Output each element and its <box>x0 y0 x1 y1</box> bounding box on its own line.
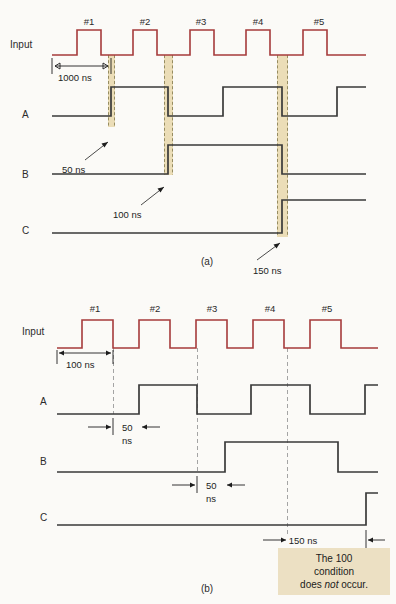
signal-label-input-a: Input <box>10 39 32 50</box>
signal-label-b-b: B <box>40 456 47 467</box>
callout-line-3-pre: does <box>300 579 324 590</box>
dimension-150ns-b: 150 ns <box>263 530 385 548</box>
figure-b-timing-diagram: #1 #2 #3 #4 #5 Input A B C 100 ns 50 ns <box>0 290 396 604</box>
annotation-a-delay-value: 50 <box>122 422 133 433</box>
pulse-number-2: #2 <box>140 16 151 27</box>
signal-label-a-a: A <box>22 109 29 120</box>
figure-caption-a: (a) <box>201 256 213 267</box>
pulse-number-1-b: #1 <box>90 303 101 314</box>
pulse-number-3: #3 <box>196 16 207 27</box>
signal-label-b-a: B <box>22 169 29 180</box>
callout-line-2: condition <box>314 566 354 577</box>
signal-label-c-b: C <box>40 512 47 523</box>
signal-label-input-b: Input <box>22 326 44 337</box>
annotation-c-delay-150ns: 150 ns <box>289 535 318 546</box>
callout-note: The 100 condition does not occur. <box>278 548 390 595</box>
pulse-number-5-b: #5 <box>322 303 333 314</box>
waveform-c-b <box>57 493 378 525</box>
annotation-100ns-a: 100 ns <box>113 187 164 220</box>
callout-line-1: The 100 <box>316 553 353 564</box>
waveform-a-a <box>52 87 366 116</box>
annotation-label-50ns: 50 ns <box>62 164 85 175</box>
waveform-input-b <box>57 320 378 348</box>
pulse-number-5: #5 <box>314 16 325 27</box>
annotation-a-delay-unit: ns <box>122 435 132 446</box>
callout-line-3-italic: not <box>325 579 340 590</box>
signal-label-c-a: C <box>22 225 29 236</box>
callout-line-3-post: occur. <box>338 579 367 590</box>
dimension-50ns-a-b: 50 ns <box>88 418 160 446</box>
annotation-label-100ns: 100 ns <box>113 209 142 220</box>
dimension-label-100ns-b: 100 ns <box>66 359 95 370</box>
dimension-1000ns: 1000 ns <box>52 58 111 83</box>
pulse-number-3-b: #3 <box>207 303 218 314</box>
pulse-numbers-b: #1 #2 #3 #4 #5 <box>90 303 333 314</box>
waveform-b-b <box>57 442 378 472</box>
pulse-number-1: #1 <box>84 16 95 27</box>
annotation-b-delay-value: 50 <box>206 480 217 491</box>
dimension-label-1000ns: 1000 ns <box>58 72 92 83</box>
figure-a-timing-diagram: #1 #2 #3 #4 #5 Input A B C 1000 ns 50 ns… <box>0 0 396 290</box>
dimension-100ns: 100 ns <box>57 350 113 370</box>
pulse-numbers-a: #1 #2 #3 #4 #5 <box>84 16 325 27</box>
callout-line-3: does not occur. <box>300 579 368 590</box>
figure-a-svg: #1 #2 #3 #4 #5 Input A B C 1000 ns 50 ns… <box>0 0 396 290</box>
figure-b-svg: #1 #2 #3 #4 #5 Input A B C 100 ns 50 ns <box>0 290 396 604</box>
pulse-number-2-b: #2 <box>150 303 161 314</box>
signal-label-a-b: A <box>40 396 47 407</box>
annotation-b-delay-unit: ns <box>206 493 216 504</box>
dimension-50ns-b-b: 50 ns <box>172 476 245 504</box>
waveform-input-a <box>52 30 366 55</box>
annotation-label-150ns: 150 ns <box>253 265 282 276</box>
figure-caption-b: (b) <box>201 583 213 594</box>
waveform-c-a <box>52 200 366 233</box>
annotation-150ns-a: 150 ns <box>253 243 282 276</box>
pulse-number-4-b: #4 <box>265 303 276 314</box>
pulse-number-4: #4 <box>253 16 264 27</box>
annotation-50ns-a: 50 ns <box>62 142 108 175</box>
waveform-a-b <box>57 385 378 414</box>
